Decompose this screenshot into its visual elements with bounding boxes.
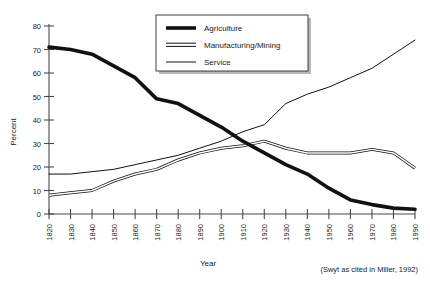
x-tick-label: 1910 [239,224,248,241]
line-chart-canvas: 01020304050607080 Percent 18201830184018… [0,0,430,283]
y-tick-label: 40 [33,116,41,125]
x-tick-label: 1970 [368,224,377,241]
x-tick-label: 1930 [282,224,291,241]
y-tick-label: 80 [33,22,41,31]
legend-label-manufacturing: Manufacturing/Mining [204,41,280,50]
y-tick-label: 10 [33,187,41,196]
x-tick-label: 1920 [260,224,269,241]
legend-label-service: Service [204,58,231,67]
series-line-manufacturing-outer [49,141,415,195]
x-tick-label: 1890 [196,224,205,241]
y-tick-label: 50 [33,93,41,102]
chart-legend: Agriculture Manufacturing/Mining Service [156,15,311,74]
chart-figure: 01020304050607080 Percent 18201830184018… [0,0,430,283]
x-tick-label: 1820 [45,224,54,241]
x-tick-label: 1870 [153,224,162,241]
x-tick-label: 1850 [110,224,119,241]
y-axis: 01020304050607080 Percent [9,22,54,219]
y-tick-label: 20 [33,163,41,172]
y-axis-tick-labels: 01020304050607080 [33,22,41,219]
y-tick-label: 0 [37,210,41,219]
y-tick-label: 30 [33,140,41,149]
x-axis-tick-labels: 1820183018401850186018701880189019001910… [45,224,420,241]
x-tick-label: 1940 [303,224,312,241]
y-tick-label: 60 [33,69,41,78]
x-tick-label: 1980 [389,224,398,241]
x-axis-title: Year [200,259,217,268]
x-tick-label: 1840 [88,224,97,241]
x-tick-label: 1900 [217,224,226,241]
x-tick-label: 1860 [131,224,140,241]
x-tick-label: 1990 [411,224,420,241]
x-tick-label: 1830 [67,224,76,241]
x-axis: 1820183018401850186018701880189019001910… [45,209,420,268]
y-tick-label: 70 [33,46,41,55]
x-tick-label: 1950 [325,224,334,241]
source-citation: (Swyt as cited in Miller, 1992) [320,265,418,274]
series-line-manufacturing-inner [49,141,415,195]
x-tick-label: 1960 [346,224,355,241]
y-axis-title: Percent [9,117,18,145]
legend-label-agriculture: Agriculture [204,24,243,33]
x-tick-label: 1880 [174,224,183,241]
